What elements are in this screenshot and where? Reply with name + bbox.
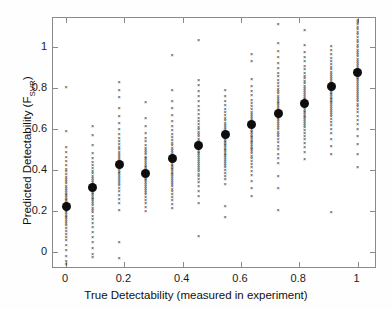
data-point [144, 201, 148, 205]
data-point [170, 189, 174, 193]
data-point [117, 121, 121, 125]
data-point [276, 71, 280, 75]
mean-marker-3 [141, 169, 150, 178]
data-point [91, 221, 95, 225]
data-point [91, 230, 95, 234]
data-point [276, 74, 280, 78]
data-point [170, 146, 174, 150]
data-point [223, 110, 227, 114]
data-point [223, 107, 227, 111]
data-point [117, 139, 121, 143]
data-point [144, 124, 148, 128]
data-point [356, 32, 360, 36]
data-point [144, 209, 148, 213]
data-point [356, 63, 360, 67]
data-point [117, 88, 121, 92]
data-point [223, 182, 227, 186]
data-point [117, 189, 121, 193]
data-point [117, 80, 121, 84]
data-point [197, 165, 201, 169]
data-point [276, 22, 280, 26]
data-point [170, 148, 174, 152]
data-point [197, 174, 201, 178]
data-point [64, 248, 68, 252]
data-point [329, 104, 333, 108]
data-point [250, 52, 254, 56]
data-point [91, 169, 95, 173]
mean-marker-8 [274, 109, 283, 118]
data-point [197, 180, 201, 184]
y-tick-right-3 [370, 129, 375, 130]
data-point [250, 135, 254, 139]
data-point [303, 128, 307, 132]
data-point [356, 104, 360, 108]
data-point [64, 232, 68, 236]
data-point [117, 193, 121, 197]
x-tick-label-4: 0.8 [291, 272, 306, 284]
plot-area [52, 17, 376, 268]
data-point [356, 142, 360, 146]
data-point [197, 132, 201, 136]
data-point [276, 125, 280, 129]
data-point [250, 169, 254, 173]
data-point [329, 127, 333, 131]
data-point [329, 108, 333, 112]
y-tick-right-1 [370, 211, 375, 212]
data-point [356, 95, 360, 99]
data-point [276, 84, 280, 88]
data-point [356, 127, 360, 131]
y-tick-right-2 [370, 170, 375, 171]
data-point [223, 165, 227, 169]
data-point [170, 119, 174, 123]
data-point [303, 55, 307, 59]
data-point [276, 41, 280, 45]
data-point [276, 91, 280, 95]
data-point [250, 89, 254, 93]
x-tick-label-1: 0.2 [116, 272, 131, 284]
data-point [117, 173, 121, 177]
data-point [170, 99, 174, 103]
data-point [64, 181, 68, 185]
data-point [276, 94, 280, 98]
data-point [223, 168, 227, 172]
data-point [329, 131, 333, 135]
data-point [329, 70, 333, 74]
data-point [250, 132, 254, 136]
data-point [170, 187, 174, 191]
data-point [197, 189, 201, 193]
data-point [303, 131, 307, 135]
x-tick-top-4 [299, 18, 300, 23]
data-point [64, 159, 68, 163]
data-point [303, 141, 307, 145]
data-point [170, 192, 174, 196]
y-tick-left-0 [53, 252, 58, 253]
data-point [356, 85, 360, 89]
data-point [276, 119, 280, 123]
data-point [117, 142, 121, 146]
data-point [303, 121, 307, 125]
data-point [356, 107, 360, 111]
data-point [356, 61, 360, 65]
data-point [91, 160, 95, 164]
data-point [223, 157, 227, 161]
data-point [303, 94, 307, 98]
data-point [64, 190, 68, 194]
data-point [197, 184, 201, 188]
data-point [329, 56, 333, 60]
data-point [223, 123, 227, 127]
data-point [170, 171, 174, 175]
data-point [329, 78, 333, 82]
data-point [223, 159, 227, 163]
data-point [170, 141, 174, 145]
data-point [250, 98, 254, 102]
data-point [250, 114, 254, 118]
data-point [64, 229, 68, 233]
data-point [303, 76, 307, 80]
data-point [303, 43, 307, 47]
data-point [91, 199, 95, 203]
data-point [276, 103, 280, 107]
mean-marker-2 [115, 160, 124, 169]
data-point [117, 183, 121, 187]
data-point [223, 174, 227, 178]
data-point [356, 89, 360, 93]
